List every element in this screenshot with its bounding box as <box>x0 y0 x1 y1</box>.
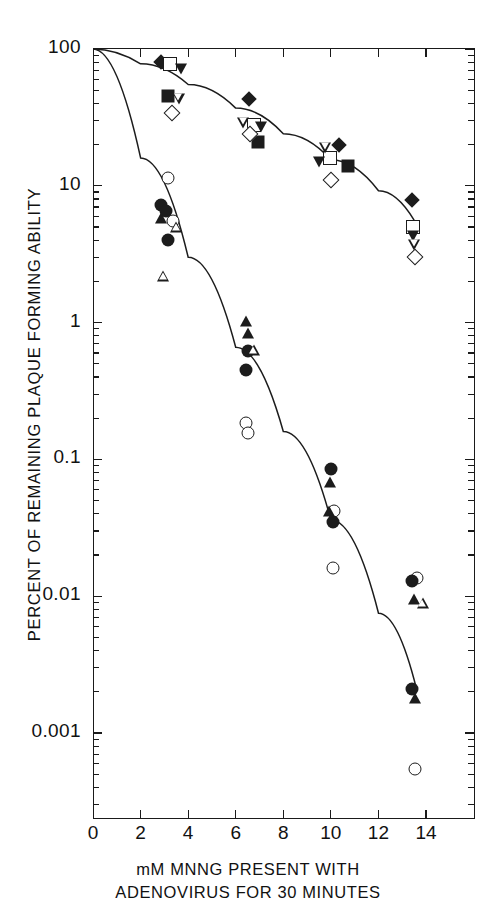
y-tick-minor <box>93 500 99 501</box>
y-tick-minor <box>93 465 99 466</box>
data-point-open-down-triangle <box>237 117 249 128</box>
y-tick-minor-right <box>468 754 474 755</box>
y-tick-minor <box>93 191 99 192</box>
scatter-chart: 1001010.10.010.00102468101214 PERCENT OF… <box>0 0 496 923</box>
y-tick-minor <box>93 787 99 788</box>
y-tick-minor-right <box>468 554 474 555</box>
data-point-open-circle <box>161 171 174 184</box>
x-tick-label: 8 <box>263 822 303 844</box>
y-tick-minor <box>93 240 99 241</box>
data-point-open-up-triangle <box>417 597 429 608</box>
y-tick-minor <box>93 637 99 638</box>
y-tick-minor <box>93 617 99 618</box>
y-tick-minor-right <box>468 70 474 71</box>
data-point-open-up-triangle <box>248 345 260 356</box>
x-tick <box>378 810 379 818</box>
y-tick-minor-right <box>468 617 474 618</box>
x-tick-label: 14 <box>406 822 446 844</box>
data-point-open-circle <box>327 562 340 575</box>
x-tick-top <box>283 49 284 57</box>
x-tick <box>283 810 284 818</box>
x-tick-label: 12 <box>358 822 398 844</box>
y-tick-minor-right <box>468 363 474 364</box>
y-tick-minor <box>93 691 99 692</box>
data-point-open-diamond <box>322 172 339 189</box>
y-tick-minor-right <box>468 281 474 282</box>
y-tick-minor <box>93 79 99 80</box>
y-tick-major <box>93 596 102 597</box>
y-tick-major-right <box>465 732 474 733</box>
data-point-filled-circle <box>324 463 337 476</box>
data-point-open-diamond <box>163 105 180 122</box>
x-tick <box>140 810 141 818</box>
x-tick <box>330 810 331 818</box>
x-tick <box>425 810 426 818</box>
y-tick-minor <box>93 739 99 740</box>
data-point-filled-up-triangle <box>240 316 252 327</box>
data-point-filled-down-triangle <box>313 156 325 167</box>
y-tick-minor <box>93 103 99 104</box>
x-tick-label: 0 <box>73 822 113 844</box>
y-tick-minor <box>93 530 99 531</box>
y-axis-title: PERCENT OF REMAINING PLAQUE FORMING ABIL… <box>25 95 44 735</box>
y-tick-major <box>93 459 102 460</box>
y-tick-minor-right <box>468 328 474 329</box>
x-tick-label: 2 <box>121 822 161 844</box>
y-tick-minor-right <box>468 602 474 603</box>
y-tick-minor <box>93 55 99 56</box>
y-tick-minor-right <box>468 352 474 353</box>
x-tick-label: 6 <box>216 822 256 844</box>
y-tick-minor <box>93 363 99 364</box>
y-tick-major-right <box>465 322 474 323</box>
data-point-open-down-triangle <box>319 142 331 153</box>
x-tick-top <box>140 49 141 57</box>
right-axis-line <box>474 49 475 818</box>
y-tick-minor <box>93 70 99 71</box>
x-tick <box>235 810 236 818</box>
y-tick-minor <box>93 120 99 121</box>
y-tick-minor-right <box>468 62 474 63</box>
y-tick-minor-right <box>468 763 474 764</box>
y-tick-minor-right <box>468 746 474 747</box>
y-tick-minor <box>93 774 99 775</box>
data-point-filled-circle <box>405 574 418 587</box>
data-point-filled-diamond <box>241 91 257 107</box>
y-tick-minor <box>93 746 99 747</box>
data-point-filled-up-triangle <box>409 693 421 704</box>
y-tick-minor <box>93 90 99 91</box>
y-tick-minor <box>93 206 99 207</box>
top-axis-line <box>93 48 475 49</box>
y-tick-major-right <box>465 459 474 460</box>
y-tick-label: 100 <box>48 36 81 58</box>
y-tick-minor-right <box>468 103 474 104</box>
data-point-open-up-triangle <box>170 222 182 233</box>
y-tick-minor-right <box>468 626 474 627</box>
y-tick-minor-right <box>468 90 474 91</box>
data-point-filled-circle <box>327 515 340 528</box>
y-tick-minor-right <box>468 226 474 227</box>
y-tick-minor-right <box>468 257 474 258</box>
y-tick-minor <box>93 513 99 514</box>
y-tick-major <box>93 185 102 186</box>
figure-page: 1001010.10.010.00102468101214 PERCENT OF… <box>0 0 496 923</box>
data-point-filled-up-triangle <box>242 328 254 339</box>
y-tick-minor-right <box>468 335 474 336</box>
y-tick-major <box>93 732 102 733</box>
data-point-filled-circle <box>240 364 253 377</box>
y-tick-minor-right <box>468 206 474 207</box>
y-tick-minor <box>93 257 99 258</box>
y-tick-minor-right <box>468 774 474 775</box>
x-tick-label: 4 <box>168 822 208 844</box>
data-point-filled-diamond <box>404 192 420 208</box>
y-tick-minor <box>93 343 99 344</box>
x-tick-top <box>378 49 379 57</box>
y-tick-minor <box>93 554 99 555</box>
data-point-filled-down-triangle <box>175 63 187 74</box>
x-axis-title-line2: ADENOVIRUS FOR 30 MINUTES <box>0 881 496 904</box>
y-tick-label: 0.1 <box>53 446 81 468</box>
y-tick-major <box>93 322 102 323</box>
y-tick-major-right <box>465 596 474 597</box>
y-tick-minor-right <box>468 650 474 651</box>
y-tick-minor-right <box>468 530 474 531</box>
x-tick-label: 10 <box>311 822 351 844</box>
